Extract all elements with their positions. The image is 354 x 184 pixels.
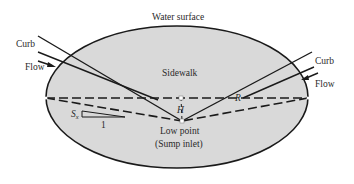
slope-run-label: 1 (101, 120, 106, 130)
spread-r-label: R (234, 93, 241, 103)
right-flow-label: Flow (315, 79, 335, 89)
water-surface-label: Water surface (152, 12, 204, 22)
low-point-node (180, 119, 184, 123)
low-point-label: Low point (160, 126, 200, 136)
left-curb-label: Curb (16, 39, 35, 49)
left-flow-label: Flow (25, 62, 45, 72)
sump-inlet-diagram: Water surface Sidewalk Curb Flow Curb Fl… (0, 0, 354, 184)
surface-node (179, 96, 183, 100)
right-curb-label: Curb (315, 56, 334, 66)
right-edge-node (307, 97, 310, 100)
sidewalk-label: Sidewalk (162, 68, 198, 78)
depth-h-label: H (176, 105, 185, 115)
left-edge-node (45, 97, 48, 100)
sump-inlet-label: (Sump inlet) (155, 139, 203, 150)
